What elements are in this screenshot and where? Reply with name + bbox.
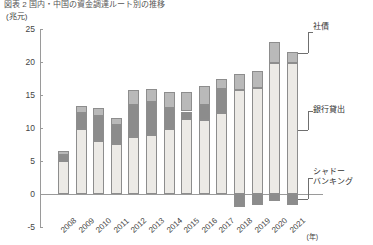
y-axis-tick-label: 0 [11,190,35,199]
y-axis-tick [40,161,43,162]
x-axis-tick-label: 2018 [235,216,254,235]
chart-top-caption: 図表 2 国内・中国の資金調達ルート別の推移 [4,0,369,9]
legend-loans-leader-stub [308,111,313,112]
bar-segment [128,90,139,105]
bar-segment [234,74,245,90]
legend-bonds-label: 社債 [313,22,329,32]
bar-segment [164,129,175,194]
y-axis-tick [40,128,43,129]
bar-segment [76,113,87,130]
y-axis-tick-label: 25 [11,25,35,34]
y-axis-tick-label: 5 [11,157,35,166]
bar-segment [181,112,192,120]
legend-bonds-leader-horizontal [298,53,308,54]
bar-segment [146,89,157,102]
bar-segment [287,52,298,63]
legend-shadow-leader-horizontal [298,199,308,200]
y-axis-tick-label: 20 [11,58,35,67]
y-axis-tick [40,194,43,195]
legend-loans-label: 銀行貸出 [313,105,345,115]
y-axis-tick-label: 10 [11,124,35,133]
bar-segment [234,90,245,194]
legend-loans-leader-horizontal [298,130,308,131]
bar-segment [252,88,263,194]
x-axis-zero-line [40,194,323,195]
y-axis-tick [40,29,43,30]
y-axis-unit-label: (兆元) [6,10,27,21]
bar-segment [234,194,245,207]
x-axis-tick-label: 2020 [270,216,289,235]
bar-segment [93,108,104,116]
legend-shadow-leader-stub [308,178,313,179]
bar-segment [111,144,122,194]
x-axis-tick-label: 2012 [129,216,148,235]
bar-segment [252,194,263,205]
y-axis-tick [40,62,43,63]
chart-container: 図表 2 国内・中国の資金調達ルート別の推移 (兆元) 2520151050-5… [0,0,373,245]
bar-segment [269,42,280,64]
legend-loans-leader-vertical [308,111,309,130]
bar-segment [269,63,280,194]
y-axis-tick-label: 15 [11,91,35,100]
bar-segment [93,116,104,141]
y-axis-tick [40,227,43,228]
bar-segment [287,194,298,205]
bar-segment [252,71,263,89]
x-axis-unit-label: (年) [306,231,318,241]
bar-segment [58,155,69,161]
x-axis-tick-label: 2021 [288,216,307,235]
x-axis-tick-label: 2010 [94,216,113,235]
bar-segment [164,92,175,108]
bar-segment [76,106,87,113]
bar-segment [111,125,122,143]
x-axis-tick-label: 2011 [112,216,131,234]
bar-segment [216,89,227,113]
legend-bonds-leader-stub [308,32,313,33]
x-axis-tick-label: 2014 [165,216,184,235]
bar-segment [128,137,139,194]
bar-segment [199,120,210,194]
bar-segment [146,135,157,194]
x-axis-tick-label: 2019 [253,216,272,235]
bar-segment [93,141,104,194]
x-axis-tick-label: 2016 [200,216,219,235]
bar-segment [111,118,122,125]
bar-segment [181,92,192,111]
bar-segment [199,86,210,105]
x-axis-tick-label: 2009 [77,216,96,235]
bar-segment [146,102,157,134]
bar-segment [76,129,87,194]
bar-segment [287,63,298,194]
bar-segment [269,194,280,201]
y-axis-tick-label: -5 [11,223,35,232]
bar-segment [58,151,69,155]
legend-shadow-leader-vertical [308,178,309,199]
bar-segment [58,161,69,194]
x-axis-tick-label: 2017 [217,216,236,235]
x-axis-tick-label: 2015 [182,216,201,235]
legend-shadow-label: シャドー バンキング [313,167,353,187]
x-axis-tick-label: 2013 [147,216,166,235]
y-axis-tick [40,95,43,96]
bar-segment [164,108,175,130]
x-axis-tick-label: 2008 [59,216,78,235]
bar-segment [181,119,192,194]
bar-segment [216,113,227,194]
bar-segment [199,105,210,120]
legend-bonds-leader-vertical [308,32,309,53]
bar-segment [128,105,139,137]
bar-segment [216,79,227,89]
